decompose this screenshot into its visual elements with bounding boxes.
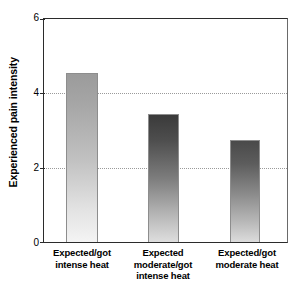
bar-expected-got-intense-heat	[66, 73, 98, 242]
x-tick-label-group-2-line-2: moderate/got	[121, 259, 205, 271]
x-tick-label-group-1-line-2: intense heat	[40, 259, 124, 271]
x-tick-label-group-2: Expected moderate/got intense heat	[121, 247, 205, 282]
y-tickmark-4	[40, 93, 45, 94]
y-tick-label-0: 0	[26, 238, 39, 248]
x-tick-label-group-2-line-3: intense heat	[121, 270, 205, 282]
plot-area	[43, 18, 288, 243]
x-tick-label-group-1: Expected/got intense heat	[40, 247, 124, 270]
bar-chart-figure: Experienced pain intensity 6 4 2 0 Expec…	[0, 0, 299, 294]
x-tick-label-group-3-line-1: Expected/got	[204, 247, 290, 259]
x-tick-label-group-2-line-1: Expected	[121, 247, 205, 259]
bar-expected-got-moderate-heat	[230, 140, 260, 242]
y-tickmark-6	[40, 19, 45, 20]
y-tickmark-0	[40, 242, 45, 243]
x-tick-label-group-3-line-2: moderate heat	[204, 259, 290, 271]
y-tick-label-6: 6	[26, 13, 39, 23]
y-axis-tick-labels: 6 4 2 0	[26, 0, 39, 294]
x-tick-label-group-1-line-1: Expected/got	[40, 247, 124, 259]
y-tick-label-4: 4	[26, 88, 39, 98]
y-tick-label-2: 2	[26, 163, 39, 173]
x-axis-tick-labels: Expected/got intense heat Expected moder…	[43, 247, 288, 294]
x-tick-label-group-3: Expected/got moderate heat	[204, 247, 290, 270]
y-tickmark-2	[40, 168, 45, 169]
y-axis-title-text: Experienced pain intensity	[8, 57, 19, 187]
y-axis-title: Experienced pain intensity	[0, 0, 26, 245]
bar-expected-moderate-got-intense-heat	[148, 114, 179, 242]
